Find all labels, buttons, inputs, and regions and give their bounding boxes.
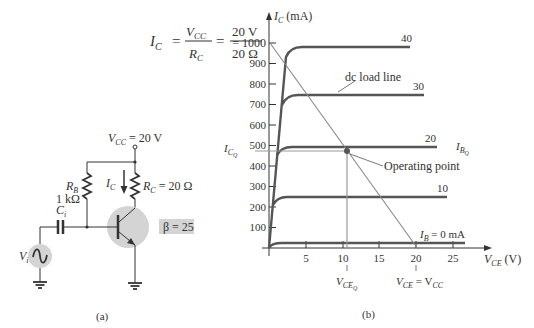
svg-text:600: 600 [250,119,267,131]
curve-label-ib0: IB = 0 mA [419,228,465,243]
figure: IC = VCC RC = 20 V 20 Ω [0,0,534,328]
svg-text:=: = [172,33,180,49]
svg-text:300: 300 [250,180,267,192]
x-axis-arrow-icon [484,245,492,251]
ground-icon [33,282,47,288]
svg-text:VCC: VCC [186,24,207,41]
curve-label-20: 20 [425,132,437,144]
curve-ib-30 [282,95,424,105]
ic-arrow-icon [121,186,128,194]
svg-text:IC: IC [149,33,162,52]
beta-label: β = 25 [163,220,194,234]
icq-label: ICQ [223,142,238,158]
y-tick-labels: 900 800 700 600 500 400 300 200 100 [250,57,267,233]
svg-text:700: 700 [250,98,267,110]
circuit-diagram [28,145,149,289]
curve-ib-10 [273,197,447,205]
curve-label-10: 10 [437,182,449,194]
vi-label: Vi [19,249,29,265]
svg-text:RC: RC [188,46,204,63]
svg-text:800: 800 [250,78,267,90]
rc-resistor [131,173,139,199]
load-line-label: dc load line [345,70,401,84]
vcc-label: VCC = 20 V [108,131,163,147]
svg-text:=: = [216,33,224,49]
y-axis-label: IC (mA) [273,9,312,25]
output-characteristics-chart: 900 800 700 600 500 400 300 200 100 5 10… [223,9,521,321]
op-point-label: Operating point [384,159,460,173]
svg-text:20: 20 [411,252,423,264]
vceq-label: VCEQ [336,275,358,291]
rb-resistor [83,173,91,199]
y-axis-arrow-icon [266,12,272,20]
svg-text:5: 5 [303,252,309,264]
svg-text:900: 900 [250,57,267,69]
svg-text:10: 10 [338,252,350,264]
caption-b: (b) [362,308,375,321]
x-axis-label: VCE (V) [484,252,521,268]
caption-a: (a) [96,310,109,323]
vce-vcc-label: VCE = VCC [396,275,444,290]
svg-text:400: 400 [250,160,267,172]
curve-label-40: 40 [401,32,413,44]
svg-text:25: 25 [448,252,460,264]
ibq-label: IBQ [455,140,470,156]
y-tick-1000: = 1000 [232,36,266,50]
ic-label: IC [105,176,116,192]
vcc-terminal [133,145,137,149]
svg-text:200: 200 [250,201,267,213]
operating-point-marker [344,148,350,154]
svg-text:15: 15 [374,252,386,264]
ground-icon [128,283,142,289]
svg-text:500: 500 [250,139,267,151]
curve-label-30: 30 [413,80,425,92]
curve-ib-0 [269,243,465,248]
x-tick-labels: 5 10 15 20 25 [303,252,459,264]
rc-label: RC = 20 Ω [142,179,192,195]
svg-text:100: 100 [250,221,267,233]
op-point-callout [350,154,383,166]
